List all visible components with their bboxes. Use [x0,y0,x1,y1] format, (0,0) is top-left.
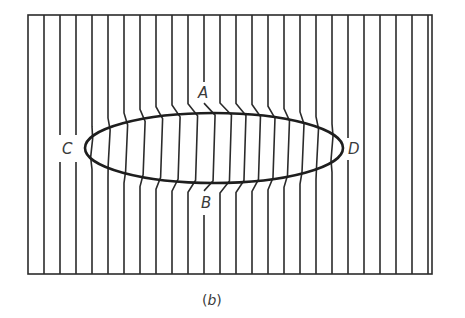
label-d: D [348,140,360,158]
label-c: C [62,140,73,158]
field-line [300,15,304,274]
figure-caption: (b) [202,292,222,308]
field-line [220,15,231,274]
field-line [316,15,319,274]
field-line [284,15,289,274]
label-b: B [201,194,211,212]
field-lines [44,15,428,274]
field-line [124,15,128,274]
label-a: A [197,84,208,102]
field-line [188,15,198,274]
field-line [331,15,333,274]
field-line [268,15,275,274]
field-line [252,15,260,274]
field-line [204,15,215,274]
field-line [91,15,93,274]
field-lines-diagram: A B C D (b) [0,0,465,318]
field-line [140,15,145,274]
field-line [172,15,180,274]
field-line [108,15,110,274]
field-line [236,15,246,274]
field-line [156,15,163,274]
